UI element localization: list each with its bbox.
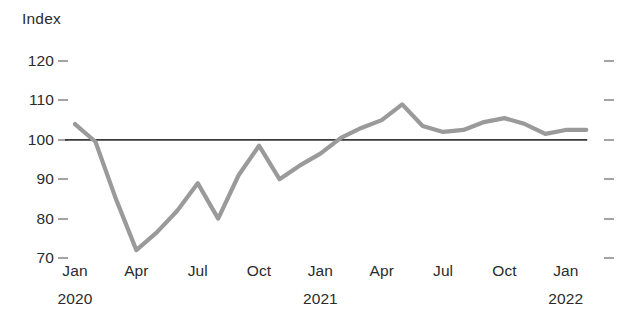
plot-area [0,0,622,329]
index-line-series [75,104,586,250]
chart-container: Index 120110100908070 JanAprJulOctJanApr… [0,0,622,329]
